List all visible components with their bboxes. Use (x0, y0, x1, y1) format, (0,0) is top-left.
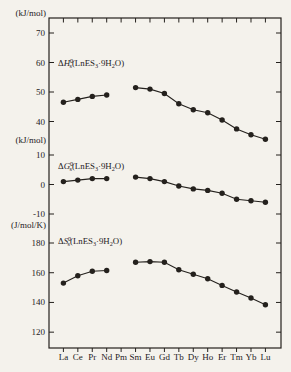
x-category-label: Pm (115, 352, 127, 362)
data-point (133, 174, 138, 179)
data-point (234, 126, 239, 131)
data-point (205, 188, 210, 193)
y-tick-label: 140 (32, 297, 46, 307)
data-point (162, 260, 167, 265)
y-tick-label: 120 (32, 327, 46, 337)
y-tick-label: 50 (36, 87, 46, 97)
axis-unit-label: (J/mol/K) (11, 220, 46, 230)
y-tick-label: 60 (36, 58, 46, 68)
data-point (176, 101, 181, 106)
x-category-label: Tb (174, 352, 184, 362)
data-point (61, 280, 66, 285)
data-point (90, 94, 95, 99)
data-point (104, 92, 109, 97)
data-point (191, 272, 196, 277)
data-point (176, 267, 181, 272)
data-point (205, 110, 210, 115)
panel-label: ΔG0s(LnES3·9H2O) (58, 160, 124, 173)
data-point (219, 117, 224, 122)
y-tick-label: 180 (32, 238, 46, 248)
data-point (263, 137, 268, 142)
axis-unit-label: (kJ/mol) (16, 8, 47, 18)
data-point (133, 260, 138, 265)
data-point (191, 107, 196, 112)
data-point (147, 176, 152, 181)
chart-canvas: LaCePrNdPmSmEuGdTbDyHoErTmYbLu(kJ/mol)70… (0, 0, 291, 372)
data-point (263, 200, 268, 205)
data-point (147, 86, 152, 91)
data-point (191, 186, 196, 191)
data-point (104, 176, 109, 181)
x-category-label: Nd (101, 352, 112, 362)
x-category-label: Pr (88, 352, 96, 362)
x-category-label: Yb (245, 352, 256, 362)
data-point (219, 283, 224, 288)
data-point (263, 302, 268, 307)
data-point (205, 276, 210, 281)
y-tick-label: -10 (33, 209, 45, 219)
y-tick-label: 10 (36, 150, 46, 160)
panel-label: ΔH0s(LnES3·9H2O) (58, 57, 124, 70)
panel-label: ΔS0s(LnES3·9H2O) (58, 235, 122, 248)
y-tick-label: 40 (36, 117, 46, 127)
axis-unit-label: (kJ/mol) (16, 135, 47, 145)
data-point (75, 97, 80, 102)
data-point (162, 91, 167, 96)
data-point (248, 198, 253, 203)
y-tick-label: 70 (36, 28, 46, 38)
x-category-label: Er (218, 352, 227, 362)
x-category-label: Eu (145, 352, 155, 362)
x-category-label: La (59, 352, 69, 362)
data-point (104, 268, 109, 273)
data-point (248, 132, 253, 137)
data-point (90, 269, 95, 274)
y-tick-label: 0 (41, 180, 46, 190)
x-category-label: Ce (73, 352, 83, 362)
data-point (61, 100, 66, 105)
data-point (234, 289, 239, 294)
data-point (219, 191, 224, 196)
data-point (61, 179, 66, 184)
data-point (147, 259, 152, 264)
x-category-label: Sm (130, 352, 142, 362)
data-point (248, 295, 253, 300)
x-category-label: Tm (230, 352, 243, 362)
x-category-label: Ho (202, 352, 213, 362)
data-point (176, 183, 181, 188)
data-point (133, 85, 138, 90)
data-point (234, 197, 239, 202)
data-point (162, 179, 167, 184)
y-tick-label: 160 (32, 268, 46, 278)
data-point (75, 273, 80, 278)
x-category-label: Lu (260, 352, 270, 362)
data-point (75, 177, 80, 182)
thermodynamics-figure-scan: LaCePrNdPmSmEuGdTbDyHoErTmYbLu(kJ/mol)70… (0, 0, 291, 372)
x-category-label: Dy (188, 352, 199, 362)
x-category-label: Gd (159, 352, 170, 362)
data-point (90, 176, 95, 181)
